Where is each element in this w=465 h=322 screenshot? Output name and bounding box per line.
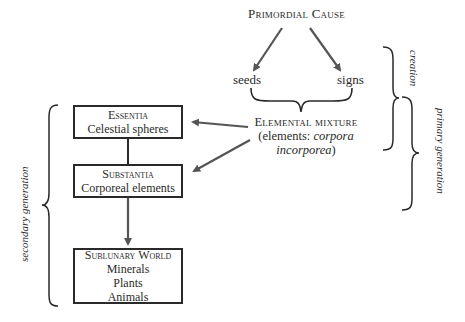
sublunary-line-animals: Animals <box>108 290 149 304</box>
substantia-box: Substantia Corporeal elements <box>73 164 183 198</box>
brace-primary-generation <box>402 97 419 210</box>
elemental-mixture-subtitle-line2: incorporea) <box>246 143 366 157</box>
sublunary-title: Sublunary World <box>85 248 172 262</box>
essentia-title: Essentia <box>108 108 148 122</box>
essentia-box: Essentia Celestial spheres <box>73 105 183 139</box>
subtitle-corpora: corpora <box>313 129 353 143</box>
elemental-mixture-subtitle: (elements: corpora <box>246 129 366 143</box>
seeds-label: seeds <box>233 72 261 88</box>
primary-generation-label: primary generation <box>435 108 447 194</box>
connectors-layer <box>0 0 465 322</box>
elemental-mixture-node: Elemental mixture (elements: corpora inc… <box>246 115 366 157</box>
essentia-line-1: Celestial spheres <box>88 122 169 136</box>
substantia-line-1: Corporeal elements <box>81 181 175 195</box>
subtitle-suffix: ) <box>331 143 335 157</box>
sublunary-world-box: Sublunary World Minerals Plants Animals <box>73 248 183 304</box>
subtitle-incorporea: incorporea <box>276 143 331 157</box>
secondary-generation-label: secondary generation <box>18 166 30 262</box>
arrow-mixture-to-substantia <box>194 140 250 171</box>
arrow-mixture-to-essentia <box>193 122 248 127</box>
arrow-cause-to-seeds <box>254 28 282 70</box>
subtitle-prefix: (elements: <box>258 129 313 143</box>
creation-label: creation <box>408 50 420 86</box>
substantia-title: Substantia <box>102 167 153 181</box>
sublunary-line-plants: Plants <box>113 276 142 290</box>
brace-seeds-signs <box>251 88 352 112</box>
elemental-mixture-title: Elemental mixture <box>246 115 366 129</box>
primordial-cause-label: Primordial Cause <box>248 6 345 22</box>
arrow-cause-to-signs <box>310 28 340 70</box>
brace-creation <box>383 47 399 150</box>
diagram-canvas: Primordial Cause seeds signs Elemental m… <box>0 0 465 322</box>
sublunary-line-minerals: Minerals <box>107 262 150 276</box>
brace-secondary-generation <box>42 105 58 306</box>
signs-label: signs <box>337 72 364 88</box>
